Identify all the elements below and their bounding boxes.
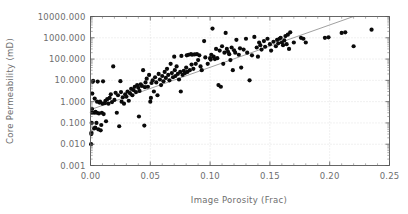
data-point [206,62,210,66]
data-point [281,43,285,47]
data-point [158,77,162,81]
x-tick-label: 0.15 [260,171,280,181]
data-point [202,39,206,43]
data-point [343,30,347,34]
data-point [237,53,241,57]
y-tick-label: 100.000 [49,54,86,64]
data-point [184,65,188,69]
data-point [148,100,152,104]
data-point [255,45,259,49]
data-point [271,40,275,44]
data-point [369,28,373,32]
y-tick-label: 1.000 [60,97,85,107]
data-point [188,68,192,72]
data-point [304,40,308,44]
data-point [124,95,128,99]
data-point [189,63,193,67]
data-point [214,47,218,51]
data-point [179,89,183,93]
data-point [167,78,171,82]
data-point [323,36,327,40]
y-tick-label: 10000.000 [38,12,86,22]
data-point [287,47,291,51]
data-point [99,128,103,132]
data-point [252,35,256,39]
data-point [268,42,272,46]
x-tick-label: 0.20 [320,171,340,181]
data-point [227,52,231,56]
data-point [258,43,262,47]
x-tick-label: 0.00 [81,171,101,181]
data-point [157,72,161,76]
x-axis-title: Image Porosity (Frac) [191,195,287,205]
data-point [265,37,269,41]
data-point [96,79,100,83]
data-point [109,92,113,96]
y-tick-label: 0.001 [60,161,85,171]
data-point [218,49,222,53]
data-point [104,119,108,123]
scatter-chart: 0.0010.0100.1001.00010.000100.0001000.00… [0,0,408,214]
data-point [292,40,296,44]
data-point [245,51,249,55]
data-point [233,51,237,55]
data-point [160,74,164,78]
data-point [119,90,123,94]
data-point [111,64,115,68]
data-point [175,64,179,68]
data-point [198,64,202,68]
data-point [112,98,116,102]
data-point [99,123,103,127]
data-point [215,56,219,60]
data-point [117,124,121,128]
data-point [127,99,131,103]
data-point [94,121,98,125]
data-point [221,62,225,66]
data-point [116,93,120,97]
data-point [203,55,207,59]
data-point [262,39,266,43]
data-point [166,73,170,77]
data-point [241,47,245,51]
data-point [222,51,226,55]
data-point [137,89,141,93]
data-point [137,114,141,118]
data-point [154,80,158,84]
data-point [130,93,134,97]
data-point [152,89,156,93]
data-point [256,55,260,59]
data-point [141,68,145,72]
x-tick-label: 0.10 [200,171,220,181]
data-point [155,93,159,97]
data-point [122,102,126,106]
data-point [200,68,204,72]
chart-canvas: 0.0010.0100.1001.00010.000100.0001000.00… [0,0,408,214]
data-point [234,38,238,42]
data-point [220,44,224,48]
data-point [101,79,105,83]
x-tick-label: 0.05 [140,171,160,181]
data-point [285,42,289,46]
data-point [263,45,267,49]
data-points [89,27,374,147]
data-point [179,54,183,58]
data-point [134,90,138,94]
data-point [143,80,147,84]
data-point [250,53,254,57]
data-point [153,75,157,79]
data-point [231,68,235,72]
data-point [161,79,165,83]
data-point [146,85,150,89]
y-axis-tick-labels: 0.0010.0100.1001.00010.000100.0001000.00… [38,12,86,171]
data-point [352,44,356,48]
data-point [145,77,149,81]
data-point [228,58,232,62]
data-point [173,68,177,72]
data-point [282,38,286,42]
data-point [259,47,263,51]
data-point [269,49,273,53]
x-tick-label: 0.25 [380,171,400,181]
data-point [279,36,283,40]
data-point [191,67,195,71]
data-point [276,41,280,45]
